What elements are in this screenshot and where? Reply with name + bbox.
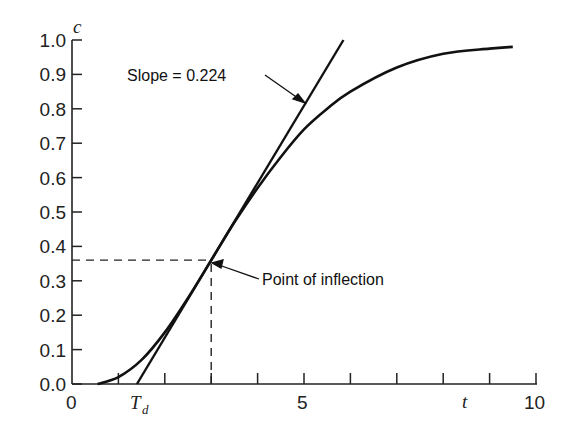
- y-tick-label: 0.2: [40, 305, 66, 326]
- annotation-arrows: [212, 75, 305, 279]
- y-tick-label: 0.1: [40, 340, 66, 361]
- svg-text:d: d: [142, 402, 149, 417]
- inflection-arrow: [216, 264, 259, 279]
- y-tick-label: 0.5: [40, 202, 66, 223]
- y-tick-label: 0.6: [40, 168, 66, 189]
- x-ticks: [118, 373, 536, 384]
- y-tick-label: 0.3: [40, 271, 66, 292]
- y-tick-label: 0.7: [40, 133, 66, 154]
- inflection-arrowhead-icon: [212, 260, 223, 268]
- slope-label: Slope = 0.224: [127, 67, 226, 84]
- y-tick-label: 0.8: [40, 99, 66, 120]
- x-axis-variable: t: [462, 391, 468, 412]
- y-tick-label: 1.0: [40, 30, 66, 51]
- y-tick-label: 0.4: [40, 236, 67, 257]
- inflection-label: Point of inflection: [262, 271, 384, 288]
- y-axis-variable: c: [73, 16, 82, 37]
- svg-text:T: T: [130, 392, 142, 413]
- tangent-line: [137, 40, 343, 384]
- chart: 0.00.10.20.30.40.50.60.70.80.91.0 Slope …: [0, 0, 565, 441]
- x-tick-label-10: 10: [524, 392, 545, 413]
- x-tick-label-0: 0: [66, 392, 77, 413]
- y-tick-label: 0.0: [40, 374, 66, 395]
- y-ticks: 0.00.10.20.30.40.50.60.70.80.91.0: [40, 30, 82, 395]
- inflection-guides: [72, 260, 211, 384]
- td-label: T d: [130, 392, 149, 417]
- response-curve: [98, 47, 513, 384]
- y-tick-label: 0.9: [40, 64, 66, 85]
- x-tick-label-5: 5: [297, 392, 308, 413]
- axes: [72, 40, 537, 384]
